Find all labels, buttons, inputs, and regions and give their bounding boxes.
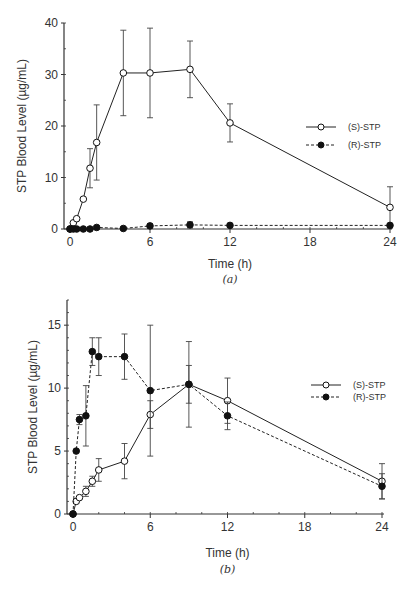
data-point [70, 511, 77, 518]
legend-label: (S)-STP [348, 122, 381, 132]
data-point [95, 353, 102, 360]
legend-label: (R)-STP [348, 140, 381, 150]
data-point [224, 413, 231, 420]
data-point [379, 483, 386, 490]
data-point [120, 225, 127, 232]
data-point [121, 458, 128, 465]
y-tick-label: 40 [45, 16, 59, 30]
data-point [187, 222, 194, 229]
data-point [120, 70, 127, 77]
data-point [93, 139, 100, 146]
y-axis-title: STP Blood Level (µg/mL) [15, 59, 29, 193]
data-point [89, 478, 96, 485]
x-tick-label: 18 [298, 520, 312, 534]
x-axis-title: Time (h) [208, 257, 252, 271]
series-line-0 [70, 69, 390, 229]
data-point [227, 222, 234, 229]
y-axis-title: STP Blood Level (µg/mL) [26, 340, 40, 474]
pharmacokinetic-figure: 01020304006121824Time (h)STP Blood Level… [0, 0, 411, 589]
open-circle-icon [323, 382, 329, 388]
data-point [187, 66, 194, 73]
x-tick-label: 24 [375, 520, 389, 534]
data-point [73, 448, 80, 455]
data-point [147, 387, 154, 394]
data-point [80, 196, 87, 203]
y-tick-label: 20 [45, 119, 59, 133]
x-axis-title: Time (h) [205, 546, 249, 560]
data-point [227, 120, 234, 127]
data-point [387, 204, 394, 211]
panel-label: (a) [222, 273, 237, 286]
x-tick-label: 18 [303, 235, 317, 249]
y-tick-label: 0 [51, 222, 58, 236]
open-circle-icon [318, 124, 324, 130]
data-point [93, 224, 100, 231]
data-point [76, 416, 83, 423]
legend-label: (R)-STP [353, 392, 386, 402]
data-point [387, 222, 394, 229]
data-point [73, 215, 80, 222]
data-point [147, 70, 154, 77]
y-tick-label: 10 [45, 171, 59, 185]
filled-circle-icon [323, 394, 329, 400]
data-point [95, 467, 102, 474]
filled-circle-icon [318, 142, 324, 148]
x-tick-label: 6 [147, 520, 154, 534]
legend-label: (S)-STP [353, 380, 386, 390]
x-tick-label: 12 [221, 520, 235, 534]
data-point [186, 381, 193, 388]
data-point [121, 353, 128, 360]
data-point [89, 348, 96, 355]
y-tick-label: 15 [48, 318, 62, 332]
panel-label: (b) [220, 563, 236, 576]
data-point [83, 488, 90, 495]
chart-panel-a: 01020304006121824Time (h)STP Blood Level… [15, 16, 397, 286]
data-point [80, 226, 87, 233]
chart-panel-b: 05101506121824Time (h)STP Blood Level (µ… [26, 300, 389, 576]
y-tick-label: 5 [54, 444, 61, 458]
x-tick-label: 6 [147, 235, 154, 249]
x-tick-label: 0 [70, 520, 77, 534]
y-tick-label: 10 [48, 381, 62, 395]
x-tick-label: 0 [67, 235, 74, 249]
data-point [76, 494, 83, 501]
data-point [147, 223, 154, 230]
y-tick-label: 30 [45, 68, 59, 82]
data-point [83, 413, 90, 420]
data-point [87, 226, 94, 233]
y-tick-label: 0 [54, 507, 61, 521]
x-tick-label: 24 [383, 235, 397, 249]
x-tick-label: 12 [223, 235, 237, 249]
data-point [87, 165, 94, 172]
data-point [73, 226, 80, 233]
series-line-1 [73, 352, 382, 514]
